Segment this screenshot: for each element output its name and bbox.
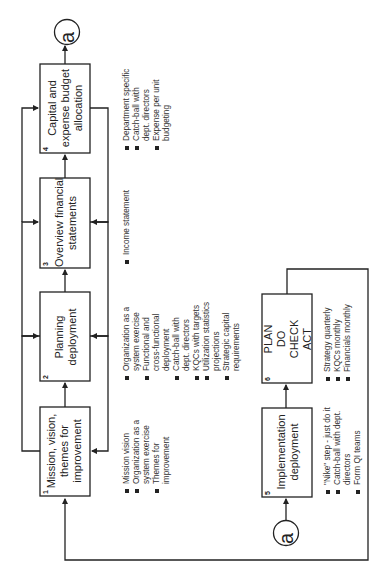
- box-4-title: Capital and expense budget allocation: [46, 64, 85, 152]
- box-5-title: Implementation deployment: [275, 409, 301, 495]
- bullet-item: Functional and: [142, 302, 152, 381]
- bullet-item: Strategic capital: [222, 302, 232, 381]
- bullet-item: Catch-ball with: [172, 302, 182, 381]
- box-1-bullets: Mission vision Organization as a system …: [122, 420, 172, 494]
- box-3-bullets: Income statement: [122, 190, 132, 265]
- bullet-item: Income statement: [122, 190, 132, 265]
- box-5-number: 5: [264, 491, 271, 495]
- box-3-title: Overview financial statements: [53, 179, 79, 267]
- box-2-title: Planning deployment: [53, 294, 79, 380]
- bullet-item: Catch-ball with dept.: [333, 407, 343, 495]
- box-2-bullets: Organization as a system exercise Functi…: [122, 302, 242, 381]
- bullet-item: Mission vision: [122, 420, 132, 494]
- box-1-title: Mission, vision, themes for improvement: [45, 408, 84, 494]
- bullet-item: Department specific: [122, 69, 132, 151]
- bullet-item: KQCs monthly: [333, 304, 343, 382]
- connector-a-bottom-label: a: [275, 533, 298, 544]
- box-6-title: PLAN DO CHECK ACT: [262, 296, 314, 382]
- bullet-item: Organization as a: [132, 420, 142, 494]
- bullet-item: Form QI teams: [353, 407, 363, 495]
- box-3-number: 3: [42, 262, 49, 266]
- box-5-bullets: "Nike" step - just do it Catch-ball with…: [323, 407, 363, 495]
- bullet-item: Utilization statistics: [202, 302, 212, 381]
- bullet-item: Themes for: [152, 420, 162, 494]
- bullet-item: Strategy quarterly: [323, 304, 333, 382]
- bullet-item: Catch-ball with: [132, 69, 142, 151]
- bullet-item: Organization as a: [122, 302, 132, 381]
- connector-a-top-label: a: [56, 32, 79, 43]
- bullet-item: KQCs with targets: [192, 302, 202, 381]
- box-2-number: 2: [42, 375, 49, 379]
- bullet-item: Financials monthly: [343, 304, 353, 382]
- box-6-bullets: Strategy quarterly KQCs monthly Financia…: [323, 304, 353, 382]
- box-4-bullets: Department specific Catch-ball with dept…: [122, 69, 172, 151]
- bullet-item: "Nike" step - just do it: [323, 407, 333, 495]
- bullet-item: Expense per unit: [152, 69, 162, 151]
